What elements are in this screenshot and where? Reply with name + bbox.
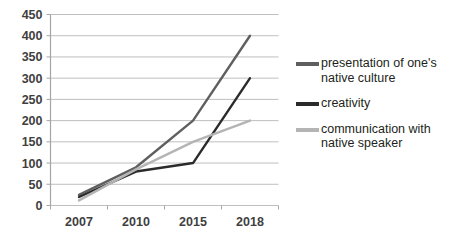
x-tick-label: 2015 (179, 215, 207, 229)
legend-label-communication: communication with native speaker (321, 122, 431, 151)
legend-item-creativity[interactable]: creativity (296, 96, 448, 111)
legend-swatch-communication (296, 128, 319, 132)
x-tick-label: 2010 (122, 215, 150, 229)
data-series-lines (79, 36, 250, 201)
y-tick-label: 350 (22, 50, 43, 64)
y-tick-label: 0 (36, 199, 43, 213)
legend-swatch-presentation (296, 62, 319, 66)
y-tick-label: 100 (22, 157, 43, 171)
chart-legend: presentation of one's native culture cre… (296, 56, 448, 162)
x-axis-tick-labels: 2007201020152018 (65, 215, 264, 229)
y-tick-label: 200 (22, 114, 43, 128)
x-tick-label: 2007 (65, 215, 93, 229)
y-tick-label: 150 (22, 135, 43, 149)
legend-item-communication[interactable]: communication with native speaker (296, 122, 448, 151)
legend-label-presentation: presentation of one's native culture (321, 56, 437, 85)
series-line-2 (79, 121, 250, 201)
y-tick-label: 50 (29, 178, 43, 192)
y-axis-tick-labels: 050100150200250300350400450 (22, 8, 43, 213)
y-tick-label: 250 (22, 93, 43, 107)
legend-label-creativity: creativity (321, 96, 370, 111)
y-tick-label: 400 (22, 29, 43, 43)
x-tick-label: 2018 (236, 215, 264, 229)
legend-swatch-creativity (296, 102, 319, 106)
series-line-1 (79, 78, 250, 197)
y-tick-label: 450 (22, 8, 43, 22)
legend-item-presentation[interactable]: presentation of one's native culture (296, 56, 448, 85)
line-chart: 050100150200250300350400450 200720102015… (0, 0, 451, 245)
y-tick-label: 300 (22, 72, 43, 86)
